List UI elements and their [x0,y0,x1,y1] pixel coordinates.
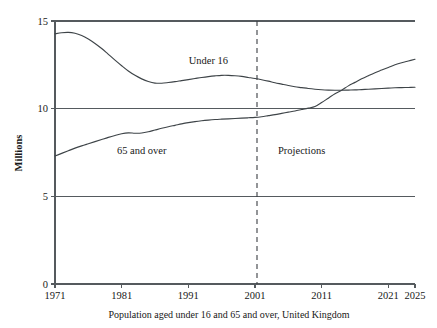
x-tick-label-1971: 1971 [45,290,66,301]
tick-labels-group: 0510151971198119912001201120212025 [38,16,426,301]
y-tick-label-0: 0 [43,279,48,290]
x-tick-label-2001: 2001 [245,290,266,301]
x-tick-label-1981: 1981 [111,290,132,301]
x-tick-label-2021: 2021 [378,290,399,301]
axes-group [55,21,415,284]
x-tick-label-1991: 1991 [178,290,199,301]
tick-marks-group [51,21,415,288]
chart-canvas: 0510151971198119912001201120212025 Milli… [0,0,437,328]
y-tick-label-15: 15 [38,16,49,27]
series-label-under-16: Under 16 [189,55,228,66]
series-lines-group [55,32,415,156]
series-line-65-and-over [55,59,415,156]
x-tick-label-2011: 2011 [311,290,332,301]
y-tick-label-5: 5 [43,191,48,202]
x-tick-label-2025: 2025 [405,290,426,301]
series-label-65-and-over: 65 and over [117,145,167,156]
y-axis-title: Millions [13,135,24,172]
y-tick-label-10: 10 [38,103,49,114]
chart-caption: Population aged under 16 and 65 and over… [108,309,349,320]
annotation-projections: Projections [278,145,325,156]
population-line-chart: 0510151971198119912001201120212025 Milli… [0,0,437,328]
series-line-under-16 [55,32,415,90]
gridlines-group [55,21,415,196]
